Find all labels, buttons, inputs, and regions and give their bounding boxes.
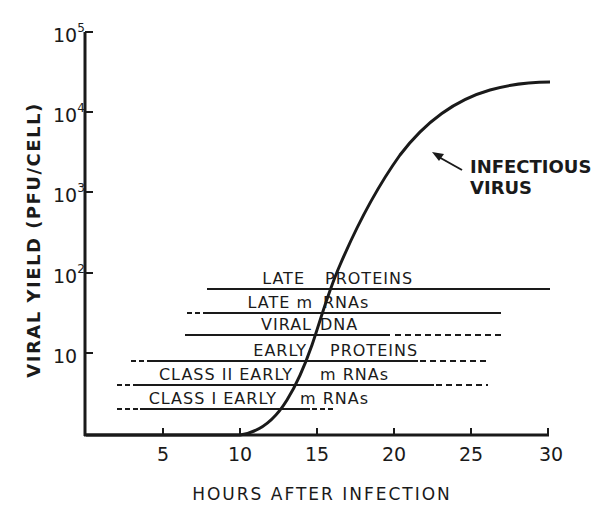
x-tick-15: 15 (305, 443, 329, 465)
y-tick-1e2: 102 (53, 262, 85, 287)
x-tick-labels: 5 10 15 20 25 30 (157, 443, 563, 465)
late-mrnas-label-right: RNAs (323, 293, 369, 312)
early-proteins-label-left: EARLY (253, 341, 307, 360)
infectious-virus-curve (86, 82, 550, 435)
y-axis-title: VIRAL YIELD (PFU/CELL) (23, 102, 44, 377)
late-proteins-label-left: LATE (262, 269, 305, 288)
x-tick-30: 30 (539, 443, 563, 465)
y-tick-10: 10 (53, 345, 77, 367)
class1-early-mrnas-label-right: m RNAs (300, 389, 369, 408)
late-mrnas-label-left: LATE m (247, 293, 313, 312)
annotation-line2: VIRUS (470, 177, 532, 198)
viral-growth-chart: 105 104 103 102 10 5 10 15 20 25 30 HOUR… (0, 0, 613, 517)
class1-early-mrnas-label-left: CLASS I EARLY (149, 389, 277, 408)
y-tick-1e5: 105 (53, 21, 85, 46)
viral-dna-label-right: DNA (320, 315, 358, 334)
x-tick-10: 10 (228, 443, 252, 465)
class2-early-mrnas-label-right: m RNAs (320, 365, 389, 384)
x-axis-title: HOURS AFTER INFECTION (192, 484, 452, 504)
y-tick-1e3: 103 (53, 181, 85, 206)
y-tick-labels: 105 104 103 102 10 (53, 21, 85, 367)
y-tick-1e4: 104 (53, 101, 85, 126)
x-tick-5: 5 (157, 443, 169, 465)
annotation-line1: INFECTIOUS (470, 156, 591, 177)
x-tick-20: 20 (382, 443, 406, 465)
x-tick-25: 25 (459, 443, 483, 465)
infectious-virus-annotation: INFECTIOUS VIRUS (432, 152, 591, 198)
viral-dna-label-left: VIRAL (261, 315, 312, 334)
class2-early-mrnas-label-left: CLASS II EARLY (159, 365, 293, 384)
early-proteins-label-right: PROTEINS (330, 341, 418, 360)
